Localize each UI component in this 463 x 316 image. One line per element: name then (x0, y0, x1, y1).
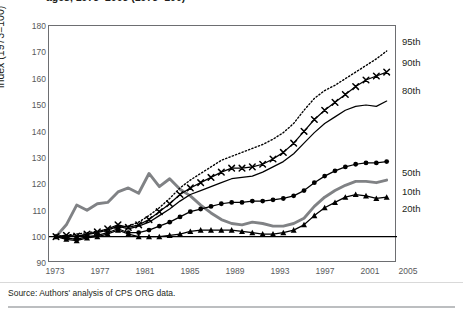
x-tick: 1997 (305, 266, 345, 276)
y-axis-label: Index (1973=100) (0, 0, 6, 112)
x-tick: 1993 (260, 266, 300, 276)
y-tick: 130 (20, 153, 46, 163)
series-label-90th: 90th (402, 57, 421, 68)
x-tick: 2001 (350, 266, 390, 276)
series-label-50th: 50th (402, 167, 421, 178)
source-note: Source: Authors' analysis of CPS ORG dat… (8, 288, 175, 298)
y-tick: 110 (20, 206, 46, 216)
y-tick: 120 (20, 179, 46, 189)
series-label-80th: 80th (402, 85, 421, 96)
y-tick: 150 (20, 100, 46, 110)
chart-figure: ages, 1973–2005 (1973=100) 180 170 160 1… (0, 0, 463, 316)
x-tick: 1989 (215, 266, 255, 276)
series-label-20th: 20th (402, 203, 421, 214)
x-tick: 1973 (35, 266, 75, 276)
x-tick: 1985 (170, 266, 210, 276)
x-tick: 1977 (80, 266, 120, 276)
divider-bottom (8, 306, 455, 308)
y-tick: 170 (20, 47, 46, 57)
divider-top (0, 282, 463, 283)
x-tick: 1981 (125, 266, 165, 276)
y-axis-ticks: 180 170 160 150 140 130 120 110 100 90 (14, 0, 46, 300)
x-tick: 2005 (388, 266, 428, 276)
series-canvas (49, 26, 397, 263)
y-tick: 180 (20, 21, 46, 31)
series-label-95th: 95th (402, 36, 421, 47)
figure-title-cropped: ages, 1973–2005 (1973=100) (46, 0, 416, 3)
series-label-10th: 10th (402, 186, 421, 197)
y-tick: 140 (20, 127, 46, 137)
y-tick: 100 (20, 232, 46, 242)
y-tick: 160 (20, 74, 46, 84)
x-axis-ticks: 1973 1977 1981 1985 1989 1993 1997 2001 … (0, 266, 463, 280)
plot-area (48, 25, 396, 262)
